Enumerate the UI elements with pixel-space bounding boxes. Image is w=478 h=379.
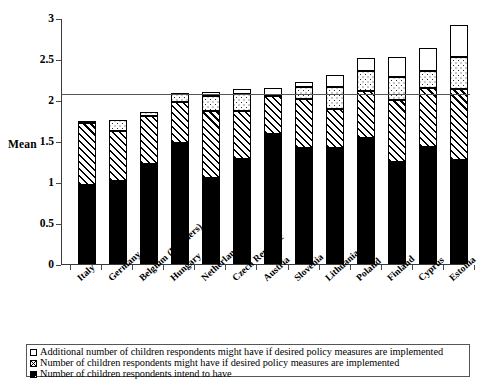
legend-item: Number of children respondents intend to…	[30, 369, 466, 379]
bar-segment-might-have	[109, 131, 127, 181]
bar-group	[233, 18, 251, 264]
bar-segment-might-have	[388, 100, 406, 162]
bar-segment-additional	[202, 96, 220, 112]
bar-segment-intend	[419, 147, 437, 264]
bar-segment-additional	[419, 71, 437, 87]
reference-line	[61, 94, 470, 95]
x-axis-tick-mark	[132, 265, 133, 270]
bar-segment-intend	[326, 148, 344, 264]
bar-segment-additional	[450, 57, 468, 89]
bar-group	[295, 18, 313, 264]
bar-segment-intend	[450, 160, 468, 264]
bar-segment-might-have	[357, 91, 375, 138]
bar-segment-additional	[109, 120, 127, 131]
bar-segment-might-have	[202, 111, 220, 177]
y-axis-tick-label: 2	[14, 95, 54, 107]
x-axis-tick-mark	[256, 265, 257, 270]
open-square-swatch	[30, 349, 37, 356]
bar-group	[140, 18, 158, 264]
x-axis-tick-mark	[443, 265, 444, 270]
legend-item-label: Additional number of children respondent…	[40, 347, 443, 358]
bar-group	[388, 18, 406, 264]
legend-item: Number of children respondents might hav…	[30, 358, 466, 369]
bar-group	[419, 18, 437, 264]
bar-segment-might-have	[419, 88, 437, 147]
legend-item-label: Number of children respondents might hav…	[40, 358, 399, 369]
bar-group	[109, 18, 127, 264]
bar-segment-additional-open	[357, 58, 375, 71]
bar-segment-intend	[357, 138, 375, 264]
bar-segment-might-have	[140, 116, 158, 164]
bar-segment-additional-open	[326, 75, 344, 87]
x-axis-tick-mark	[350, 265, 351, 270]
bar-segment-might-have	[295, 99, 313, 148]
bar-segment-intend	[388, 162, 406, 264]
bar-segment-intend	[295, 148, 313, 264]
y-axis-tick-label: 1.5	[14, 136, 54, 148]
x-axis-tick-mark	[163, 265, 164, 270]
y-axis-tick-label: 2.5	[14, 54, 54, 66]
bar-segment-might-have	[233, 111, 251, 159]
bar-segment-additional	[233, 94, 251, 111]
bar-segment-might-have	[326, 109, 344, 148]
bar-group	[202, 18, 220, 264]
crossed-square-swatch	[30, 360, 37, 367]
plot-area	[61, 19, 465, 265]
bar-segment-additional	[357, 71, 375, 91]
x-axis-tick-mark	[225, 265, 226, 270]
bar-segment-might-have	[171, 102, 189, 142]
x-axis-tick-mark	[474, 265, 475, 270]
x-axis-tick-mark	[70, 265, 71, 270]
y-axis-tick-label: 1	[14, 177, 54, 189]
y-axis-tick-label: 0	[14, 259, 54, 271]
bar-segment-additional-open	[450, 25, 468, 56]
bar-group	[171, 18, 189, 264]
bar-segment-might-have	[264, 96, 282, 135]
bar-segment-intend	[109, 181, 127, 264]
bar-segment-additional	[326, 87, 344, 109]
bar-group	[264, 18, 282, 264]
y-axis-tick-label: 0.5	[14, 218, 54, 230]
y-axis-tick-mark	[56, 265, 61, 266]
x-axis-tick-mark	[194, 265, 195, 270]
bar-segment-additional-open	[388, 57, 406, 77]
bar-segment-additional	[295, 87, 313, 99]
x-axis-tick-mark	[288, 265, 289, 270]
y-axis-tick-label: 3	[14, 13, 54, 25]
bar-segment-additional	[171, 94, 189, 102]
bar-group	[78, 18, 96, 264]
legend: Additional number of children respondent…	[26, 344, 470, 377]
bar-group	[450, 18, 468, 264]
legend-item: Additional number of children respondent…	[30, 347, 466, 358]
filled-square-swatch	[30, 371, 37, 378]
bar-segment-might-have	[78, 123, 96, 185]
bar-segment-additional-open	[419, 48, 437, 71]
x-axis-tick-mark	[319, 265, 320, 270]
bar-segment-intend	[78, 185, 96, 264]
bar-segment-additional	[78, 121, 96, 123]
bar-segment-additional-open	[295, 82, 313, 87]
bar-segment-additional	[140, 112, 158, 116]
x-axis-tick-mark	[101, 265, 102, 270]
x-axis-tick-mark	[412, 265, 413, 270]
bar-group	[357, 18, 375, 264]
bar-segment-intend	[202, 178, 220, 264]
bar-segment-additional	[388, 77, 406, 100]
legend-item-label: Number of children respondents intend to…	[40, 369, 232, 379]
x-axis-tick-mark	[381, 265, 382, 270]
bar-segment-intend	[140, 164, 158, 264]
bar-segment-might-have	[450, 89, 468, 160]
bar-group	[326, 18, 344, 264]
